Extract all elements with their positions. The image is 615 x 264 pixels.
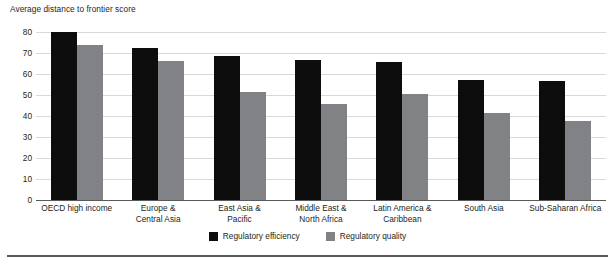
bar-efficiency [295,60,321,200]
x-tick-label: Middle East &North Africa [280,203,361,224]
bar-group [443,32,524,200]
legend-swatch-gray [326,232,335,241]
x-tick-label-line: East Asia & [199,203,280,214]
y-tick-label: 0 [2,196,32,204]
x-tick-label-line: North Africa [280,214,361,225]
x-tick-label-line: Pacific [199,214,280,225]
bar-quality [240,92,266,200]
x-tick-label-line: Latin America & [362,203,443,214]
legend-label: Regulatory efficiency [223,231,300,241]
x-tick-label: Europe &Central Asia [117,203,198,224]
legend-label: Regulatory quality [340,231,406,241]
y-tick-label: 10 [2,175,32,183]
bar-groups [36,32,606,200]
legend-item: Regulatory quality [326,231,406,241]
y-axis-ticks: 01020304050607080 [0,32,32,200]
x-tick-label: OECD high income [36,203,117,214]
bar-efficiency [539,81,565,200]
bar-group [36,32,117,200]
bar-efficiency [51,32,77,200]
bar-quality [77,45,103,200]
x-tick-label: East Asia &Pacific [199,203,280,224]
bar-quality [321,104,347,200]
y-tick-label: 70 [2,49,32,57]
bar-group [199,32,280,200]
bar-quality [484,113,510,200]
bar-efficiency [214,56,240,200]
x-axis-labels: OECD high incomeEurope &Central AsiaEast… [36,203,606,229]
bar-group [280,32,361,200]
x-tick-label-line: Middle East & [280,203,361,214]
x-tick-label: Sub-Saharan Africa [525,203,606,214]
y-tick-label: 40 [2,112,32,120]
y-tick-label: 80 [2,28,32,36]
x-tick-label-line: Central Asia [117,214,198,225]
bar-group [525,32,606,200]
x-tick-label-line: Sub-Saharan Africa [525,203,606,214]
bar-quality [565,121,591,200]
bar-efficiency [458,80,484,200]
bar-quality [402,94,428,200]
x-tick-label-line: Caribbean [362,214,443,225]
legend-item: Regulatory efficiency [209,231,300,241]
legend-swatch-black [209,232,218,241]
bar-efficiency [132,48,158,200]
bar-group [362,32,443,200]
bar-chart-figure: Average distance to frontier score 01020… [0,0,615,264]
bar-group [117,32,198,200]
x-tick-label-line: Europe & [117,203,198,214]
x-tick-label-line: OECD high income [36,203,117,214]
x-tick-label: Latin America &Caribbean [362,203,443,224]
y-tick-label: 50 [2,91,32,99]
x-tick-label: South Asia [443,203,524,214]
bar-efficiency [376,62,402,200]
chart-legend: Regulatory efficiencyRegulatory quality [0,231,615,241]
bottom-divider [7,255,608,257]
y-axis-title: Average distance to frontier score [10,4,136,14]
y-tick-label: 60 [2,70,32,78]
bar-quality [158,61,184,200]
x-tick-label-line: South Asia [443,203,524,214]
y-tick-label: 30 [2,133,32,141]
y-tick-label: 20 [2,154,32,162]
